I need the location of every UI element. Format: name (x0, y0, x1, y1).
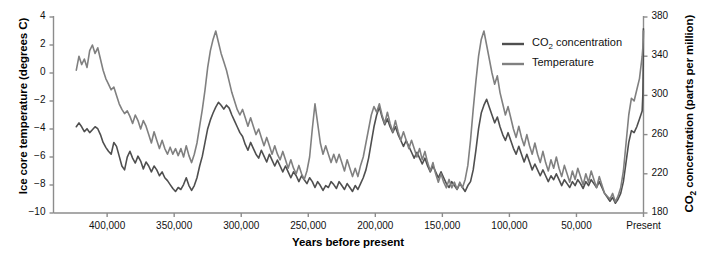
y-axis-left-tick-label: −6 (8, 150, 46, 161)
x-axis-tick-label: Present (609, 220, 679, 231)
y-axis-left-tick-label: −8 (8, 178, 46, 189)
legend-item-label: Temperature (532, 56, 594, 68)
legend-item-label: CO2 concentration (532, 36, 622, 51)
y-axis-left-tick-label: −10 (8, 206, 46, 217)
y-axis-left-tick-label: 4 (8, 10, 46, 21)
x-axis-tick-label: 100,000 (474, 220, 544, 231)
y-axis-left-tick-label: 2 (8, 38, 46, 49)
y-axis-right-tick-label: 300 (652, 88, 692, 99)
x-axis-tick-label: 400,000 (72, 220, 142, 231)
y-axis-left-tick-label: 0 (8, 66, 46, 77)
y-axis-right-tick-label: 220 (652, 167, 692, 178)
x-axis-tick-label: 150,000 (407, 220, 477, 231)
y-axis-right-tick-label: 380 (652, 10, 692, 21)
y-axis-right-tick-label: 180 (652, 206, 692, 217)
y-axis-left-tick-label: −4 (8, 122, 46, 133)
x-axis-tick-label: 200,000 (340, 220, 410, 231)
chart-container: Ice core temperature (degrees C) CO2 con… (0, 0, 706, 264)
y-axis-right-tick-label: 340 (652, 49, 692, 60)
chart-overlay: 420−2−4−6−8−10380340300260220180400,0003… (0, 0, 706, 264)
x-axis-tick-label: 350,000 (139, 220, 209, 231)
x-axis-tick-label: 50,000 (541, 220, 611, 231)
x-axis-tick-label: 250,000 (273, 220, 343, 231)
y-axis-right-tick-label: 260 (652, 128, 692, 139)
x-axis-tick-label: 300,000 (206, 220, 276, 231)
y-axis-left-tick-label: −2 (8, 94, 46, 105)
